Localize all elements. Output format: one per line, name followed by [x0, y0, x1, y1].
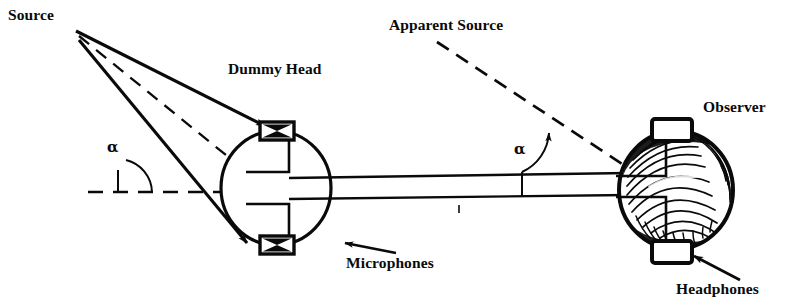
- ray-upper: [76, 31, 265, 126]
- angle-arc-right: [522, 133, 549, 172]
- angle-arc-left: [126, 160, 152, 192]
- headphone-earcup-bottom-body: [652, 241, 692, 263]
- apparent-source-line: [437, 42, 651, 183]
- label-observer: Observer: [703, 99, 766, 115]
- cable-line-upper: [289, 173, 628, 178]
- headphone-earcup-top: [652, 119, 692, 141]
- dummy-head-outline: [221, 131, 331, 245]
- label-source: Source: [8, 7, 54, 23]
- connecting-cable: [289, 172, 628, 213]
- headphones-callout-arrow: [694, 256, 740, 280]
- dummy-head-group: [221, 122, 331, 254]
- microphone-top: [260, 122, 294, 140]
- apparent-source-group: [437, 42, 651, 183]
- microphones-callout-arrow: [345, 243, 396, 253]
- label-microphones: Microphones: [346, 255, 434, 271]
- ray-lower: [79, 40, 247, 243]
- cable-line-lower: [289, 195, 628, 199]
- label-alpha-left: α: [107, 140, 119, 155]
- microphone-bottom: [260, 236, 294, 254]
- headphone-earcup-top-body: [652, 119, 692, 141]
- label-alpha-right: α: [514, 142, 526, 157]
- label-dummy-head: Dummy Head: [228, 61, 322, 77]
- binaural-recording-diagram: Source Dummy Head Apparent Source Observ…: [0, 0, 798, 308]
- label-headphones: Headphones: [676, 281, 759, 297]
- headphone-earcup-bottom: [652, 241, 692, 263]
- label-apparent-source: Apparent Source: [389, 17, 503, 33]
- observer-head-group: [616, 119, 740, 263]
